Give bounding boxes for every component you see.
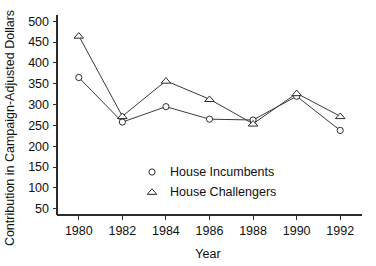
data-point-circle — [206, 116, 212, 122]
x-axis-title: Year — [195, 247, 220, 261]
y-tick-label: 300 — [28, 98, 49, 112]
legend-label: House Challengers — [170, 185, 276, 199]
y-tick-label: 250 — [28, 119, 49, 133]
data-point-circle — [337, 127, 343, 133]
y-tick-label: 150 — [28, 160, 49, 174]
x-tick-label: 1992 — [326, 224, 354, 238]
data-point-circle — [119, 119, 125, 125]
y-tick-label: 500 — [28, 15, 49, 29]
legend-marker-circle — [149, 169, 155, 175]
y-tick-label: 350 — [28, 77, 49, 91]
series-challengers — [74, 33, 345, 126]
x-tick-label: 1982 — [108, 224, 136, 238]
series-polyline — [79, 36, 340, 124]
data-point-triangle — [74, 33, 84, 39]
data-series-layer — [74, 33, 345, 134]
x-tick-label: 1986 — [196, 224, 224, 238]
legend-label: House Incumbents — [170, 165, 274, 179]
data-point-triangle — [292, 90, 302, 96]
line-chart: Contribution in Campaign-Adjusted Dollar… — [0, 0, 376, 266]
x-tick-label: 1980 — [65, 224, 93, 238]
chart-legend: House IncumbentsHouse Challengers — [147, 165, 276, 199]
data-point-circle — [163, 104, 169, 110]
x-tick-label: 1988 — [239, 224, 267, 238]
x-axis-ticks: 1980198219841986198819901992 — [65, 215, 354, 238]
chart-container: Contribution in Campaign-Adjusted Dollar… — [0, 0, 376, 266]
y-axis-ticks: 50100150200250300350400450500 — [28, 15, 57, 217]
data-point-triangle — [335, 113, 345, 119]
x-tick-label: 1990 — [283, 224, 311, 238]
y-axis-title: Contribution in Campaign-Adjusted Dollar… — [3, 10, 17, 246]
data-point-triangle — [205, 96, 215, 102]
y-tick-label: 400 — [28, 56, 49, 70]
legend-item: House Challengers — [147, 185, 276, 199]
y-tick-label: 100 — [28, 181, 49, 195]
y-tick-label: 450 — [28, 35, 49, 49]
legend-marker-triangle — [147, 189, 157, 195]
y-tick-label: 200 — [28, 140, 49, 154]
data-point-circle — [76, 74, 82, 80]
y-tick-label: 50 — [35, 202, 49, 216]
legend-item: House Incumbents — [149, 165, 274, 179]
data-point-triangle — [161, 78, 171, 84]
x-tick-label: 1984 — [152, 224, 180, 238]
